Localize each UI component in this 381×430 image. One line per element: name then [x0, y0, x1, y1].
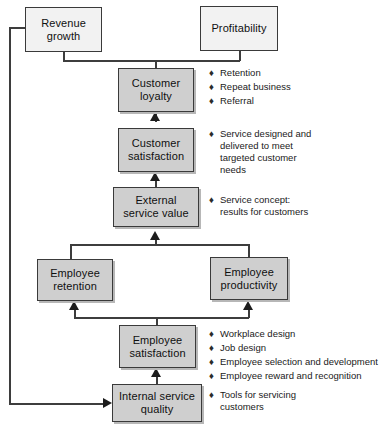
bullet-icon: ♦	[209, 342, 220, 354]
list-item-text: Referral	[220, 95, 374, 107]
connector-bar-to-retention	[70, 244, 72, 260]
node-employee-satisfaction: Employee satisfaction	[119, 325, 196, 368]
annotations-external-service-value: ♦ Service concept: results for customers	[209, 194, 374, 220]
list-item: ♦ Tools for servicing customers	[209, 389, 374, 413]
node-external-service-value-label: External service value	[121, 194, 191, 220]
bullet-icon: ♦	[209, 81, 220, 93]
bullet-icon: ♦	[209, 67, 220, 79]
node-customer-loyalty: Customer loyalty	[118, 68, 194, 112]
node-external-service-value: External service value	[113, 187, 199, 227]
bullet-icon: ♦	[209, 95, 220, 107]
connector-bar-to-profit	[239, 50, 241, 61]
feedback-loop-top-segment	[9, 27, 26, 29]
list-item-text: Service concept: results for customers	[220, 194, 374, 218]
feedback-loop-bottom-segment	[9, 403, 104, 405]
list-item: ♦ Employee selection and development	[209, 356, 381, 368]
arrowhead-esv-to-satisfaction	[150, 172, 160, 181]
node-internal-service-quality-label: Internal service quality	[117, 390, 197, 416]
list-item: ♦ Service concept: results for customers	[209, 194, 374, 218]
list-item-text: Employee selection and development	[220, 356, 381, 368]
node-employee-productivity-label: Employee productivity	[219, 266, 280, 292]
node-employee-productivity: Employee productivity	[210, 257, 288, 300]
list-item: ♦ Service designed and delivered to meet…	[209, 128, 369, 177]
bullet-icon: ♦	[209, 356, 220, 368]
list-item-text: Workplace design	[220, 328, 381, 340]
connector-bar-to-revenue	[63, 51, 65, 61]
list-item: ♦ Job design	[209, 342, 381, 354]
bullet-icon: ♦	[209, 370, 220, 382]
feedback-loop-left-segment	[9, 27, 11, 404]
connector-employees-top-bar	[70, 244, 249, 246]
service-profit-chain-diagram: Revenue growth Profitability Customer lo…	[0, 0, 381, 430]
arrowhead-to-retention	[69, 301, 79, 310]
node-revenue-growth: Revenue growth	[25, 7, 102, 52]
list-item-text: Job design	[220, 342, 381, 354]
node-profitability: Profitability	[200, 6, 278, 51]
arrowhead-satisfaction-to-loyalty	[150, 112, 160, 121]
node-customer-satisfaction-label: Customer satisfaction	[126, 137, 186, 163]
node-customer-loyalty-label: Customer loyalty	[130, 77, 182, 103]
bullet-icon: ♦	[209, 328, 220, 340]
connector-bar-to-productivity	[248, 244, 250, 258]
arrowhead-feedback-to-isq	[103, 398, 112, 408]
annotations-customer-loyalty: ♦ Retention ♦ Repeat business ♦ Referral	[209, 67, 374, 109]
annotations-internal-service-quality: ♦ Tools for servicing customers	[209, 389, 374, 415]
node-employee-retention-label: Employee retention	[48, 267, 102, 293]
list-item: ♦ Employee reward and recognition	[209, 370, 381, 382]
annotations-employee-satisfaction: ♦ Workplace design ♦ Job design ♦ Employ…	[209, 328, 381, 385]
node-profitability-label: Profitability	[209, 22, 268, 35]
arrowhead-employees-to-esv	[150, 231, 160, 240]
list-item-text: Service designed and delivered to meet t…	[220, 128, 369, 177]
arrowhead-to-productivity	[243, 301, 253, 310]
node-revenue-growth-label: Revenue growth	[39, 17, 88, 43]
list-item: ♦ Workplace design	[209, 328, 381, 340]
node-employee-satisfaction-label: Employee satisfaction	[127, 334, 187, 360]
connector-employees-bottom-bar	[74, 317, 249, 319]
annotations-customer-satisfaction: ♦ Service designed and delivered to meet…	[209, 128, 369, 179]
node-employee-retention: Employee retention	[37, 259, 113, 301]
list-item: ♦ Repeat business	[209, 81, 374, 93]
bullet-icon: ♦	[209, 389, 220, 401]
list-item-text: Retention	[220, 67, 374, 79]
node-customer-satisfaction: Customer satisfaction	[118, 128, 194, 172]
bullet-icon: ♦	[209, 194, 220, 206]
list-item: ♦ Referral	[209, 95, 374, 107]
list-item-text: Employee reward and recognition	[220, 370, 381, 382]
bullet-icon: ♦	[209, 128, 220, 140]
connector-top-bar	[63, 60, 240, 62]
arrowhead-isq-to-empsat	[151, 368, 161, 377]
list-item-text: Repeat business	[220, 81, 374, 93]
list-item-text: Tools for servicing customers	[220, 389, 374, 413]
node-internal-service-quality: Internal service quality	[112, 384, 202, 422]
list-item: ♦ Retention	[209, 67, 374, 79]
